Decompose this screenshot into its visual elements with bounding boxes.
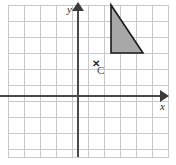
coordinate-grid-figure: x y ✕ C — [0, 0, 176, 165]
shaded-right-triangle — [111, 5, 143, 53]
shape-layer — [0, 0, 176, 165]
point-c-label: C — [97, 65, 104, 76]
